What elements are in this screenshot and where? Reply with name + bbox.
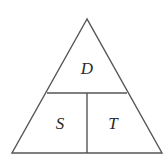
label-distance: D: [80, 59, 94, 78]
label-speed: S: [56, 114, 65, 133]
label-time: T: [108, 114, 119, 133]
formula-triangle: D S T: [0, 0, 168, 163]
